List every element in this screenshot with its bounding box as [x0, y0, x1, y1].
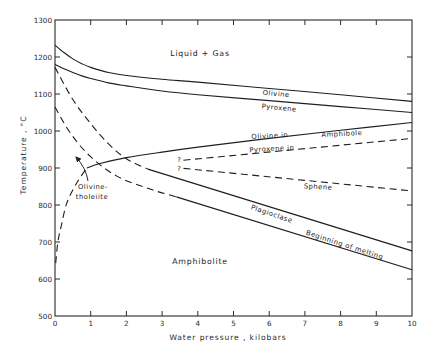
phase-diagram-chart: 0123456789105006007008009001000110012001…: [0, 0, 437, 356]
beginning-of-melting-label: Beginning of melting: [305, 229, 384, 262]
beginning-of-melting-inferred-curve: [55, 107, 176, 197]
x-tick-label: 9: [374, 319, 379, 328]
y-tick-label: 700: [38, 238, 52, 247]
curves: [55, 45, 412, 270]
amphibolite-label: Amphibolite: [172, 257, 228, 266]
y-axis-title: Temperature , °C: [19, 116, 28, 196]
x-tick-label: 4: [196, 319, 201, 328]
olivine-liquidus-curve: [55, 45, 412, 101]
x-axis-title: Water pressure , kilobars: [169, 333, 286, 342]
pyroxene-in-question-mark: ?: [177, 156, 181, 164]
olivine-in-label: Olivine in: [251, 131, 288, 141]
liquid-gas-label: Liquid + Gas: [170, 49, 230, 58]
y-tick-label: 1300: [34, 16, 53, 25]
pyroxene-label: Pyroxene: [261, 102, 297, 113]
x-tick-label: 10: [407, 319, 417, 328]
x-tick-label: 6: [267, 319, 272, 328]
x-tick-label: 7: [303, 319, 308, 328]
sphene-question-mark: ?: [177, 165, 181, 173]
pyroxene-in-amphibole-curve: [184, 138, 412, 160]
plagioclase-curve: [148, 169, 412, 251]
x-tick-label: 8: [338, 319, 343, 328]
x-tick-label: 3: [160, 319, 165, 328]
plot-frame: [55, 20, 412, 316]
x-tick-label: 1: [88, 319, 93, 328]
sphene-curve: [184, 168, 412, 191]
pyroxene-curve: [55, 64, 412, 112]
plagioclase-inferred-curve: [55, 67, 148, 169]
x-tick-label: 0: [53, 319, 58, 328]
amphibole-label: Amphibole: [321, 129, 362, 139]
axis-ticks: [55, 20, 412, 316]
olivine-label: Olivine: [262, 89, 290, 99]
axis-tick-labels: 0123456789105006007008009001000110012001…: [34, 16, 417, 329]
x-tick-label: 5: [231, 319, 236, 328]
olivine-tholeiite-label-line2: tholeiite: [76, 193, 108, 201]
pyroxene-in-label: Pyroxene in: [249, 144, 294, 154]
y-tick-label: 800: [38, 201, 52, 210]
olivine-tholeiite-arrow-icon: [76, 157, 88, 181]
sphene-label: Sphene: [304, 182, 333, 191]
y-tick-label: 900: [38, 164, 52, 173]
y-tick-label: 1000: [34, 127, 53, 136]
y-tick-label: 1200: [34, 53, 53, 62]
olivine-tholeiite-label-line1: Olivine-: [78, 183, 108, 191]
x-tick-label: 2: [124, 319, 129, 328]
y-tick-label: 600: [38, 275, 52, 284]
y-tick-label: 500: [38, 312, 52, 321]
y-tick-label: 1100: [34, 90, 53, 99]
